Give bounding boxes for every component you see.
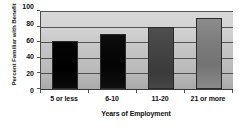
x-axis-title: Years of Employment — [40, 110, 232, 117]
x-tick-label-11-20: 11-20 — [136, 95, 184, 102]
y-tick-label-0: 0 — [12, 87, 34, 95]
x-tick-label-5-or-less: 5 or less — [40, 95, 88, 102]
bar-11-20[interactable] — [148, 27, 175, 89]
x-tick-label-6-10: 6-10 — [88, 95, 136, 102]
bar-6-10[interactable] — [100, 34, 127, 89]
bar-21-or-more[interactable] — [196, 18, 223, 89]
bars-layer — [41, 11, 233, 89]
bar-slot-11-20 — [137, 11, 185, 89]
bar-chart: Percent Familiar with Benefit 100 80 60 … — [0, 0, 239, 127]
y-tick-label-100: 100 — [12, 3, 34, 11]
plot-area — [40, 11, 233, 90]
x-tick-mark-4 — [232, 90, 233, 93]
bar-slot-6-10 — [89, 11, 137, 89]
x-tick-mark-2 — [136, 90, 137, 93]
bar-slot-5-or-less — [41, 11, 89, 89]
x-tick-mark-1 — [88, 90, 89, 93]
x-axis-tick-marks — [40, 90, 233, 94]
x-tick-mark-0 — [40, 90, 41, 93]
y-tick-label-40: 40 — [12, 53, 34, 61]
y-tick-label-80: 80 — [12, 20, 34, 28]
x-tick-mark-3 — [184, 90, 185, 93]
y-tick-label-60: 60 — [12, 37, 34, 45]
x-tick-label-21-or-more: 21 or more — [184, 95, 232, 102]
bar-5-or-less[interactable] — [52, 41, 79, 89]
x-axis-tick-labels: 5 or less 6-10 11-20 21 or more — [40, 95, 232, 102]
bar-slot-21-or-more — [185, 11, 233, 89]
y-axis-tick-labels: 100 80 60 40 20 0 — [12, 7, 34, 91]
y-tick-label-20: 20 — [12, 70, 34, 78]
